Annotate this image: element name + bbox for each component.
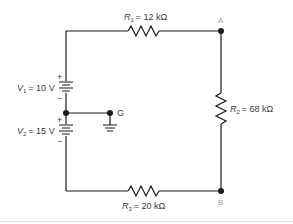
resistor-r3-zigzag xyxy=(128,186,159,196)
v2-minus-sign: − xyxy=(57,136,62,146)
v2-label: V2= 15 V xyxy=(17,126,55,137)
node-b-dot xyxy=(218,188,224,194)
node-g-label: G xyxy=(117,108,124,118)
v2-plus-sign: + xyxy=(57,115,62,125)
battery-v2-icon xyxy=(59,125,73,134)
node-b-label: B xyxy=(218,198,223,207)
r2-label: R2= 68 kΩ xyxy=(230,104,274,115)
ground-icon xyxy=(103,125,117,131)
bottom-divider xyxy=(0,221,293,222)
v1-minus-sign: − xyxy=(57,93,62,103)
v1-label: V1= 10 V xyxy=(17,83,55,94)
v1-plus-sign: + xyxy=(57,72,62,82)
battery-v1-icon xyxy=(59,82,73,91)
r3-label: R3= 20 kΩ xyxy=(122,201,166,212)
node-a-dot xyxy=(218,28,224,34)
r1-label: R1= 12 kΩ xyxy=(124,12,168,23)
resistor-r2-zigzag xyxy=(216,93,226,124)
resistor-r1-zigzag xyxy=(128,26,159,36)
junction-dot xyxy=(63,110,69,116)
node-a-label: A xyxy=(218,16,224,25)
circuit-diagram: + − + − A B G R1= 12 kΩ R2= 68 kΩ R3= 20… xyxy=(0,0,293,224)
